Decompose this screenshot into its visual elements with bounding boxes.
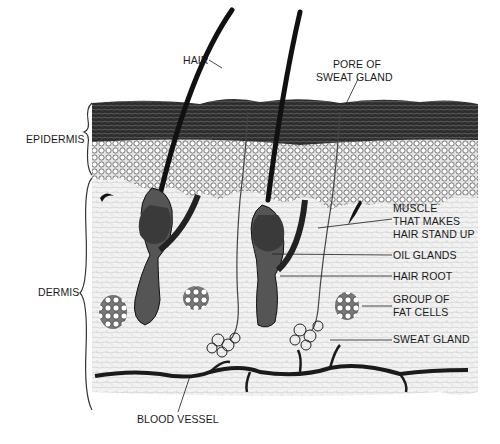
label-fat-line1: GROUP OF: [393, 293, 450, 306]
dermis-bracket: [80, 178, 92, 410]
label-oil-glands: OIL GLANDS: [393, 249, 457, 262]
label-pore-line1: PORE OF: [333, 58, 381, 71]
label-hair-root: HAIR ROOT: [393, 270, 452, 283]
label-muscle-line2: THAT MAKES: [393, 215, 460, 228]
oil-gland-right: [252, 215, 284, 252]
label-fat-line2: FAT CELLS: [393, 306, 448, 319]
skin-diagram: HAIR PORE OF SWEAT GLAND EPIDERMIS DERMI…: [0, 0, 500, 444]
label-muscle-line3: HAIR STAND UP: [393, 228, 475, 241]
fat-cells-2: [183, 286, 209, 310]
label-blood-vessel: BLOOD VESSEL: [137, 413, 219, 426]
epidermis-top-layer: [92, 99, 478, 145]
fat-cells-1: [99, 295, 127, 329]
label-hair: HAIR: [183, 54, 209, 67]
epidermis-bracket: [84, 103, 92, 175]
fat-cells-3: [335, 292, 359, 320]
label-epidermis: EPIDERMIS: [26, 133, 85, 146]
label-dermis: DERMIS: [38, 286, 79, 299]
label-pore-line2: SWEAT GLAND: [316, 71, 393, 84]
label-muscle-line1: MUSCLE: [393, 202, 437, 215]
label-sweat-gland: SWEAT GLAND: [393, 333, 470, 346]
